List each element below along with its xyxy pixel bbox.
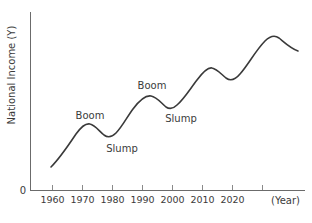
x-tick-label-2000: 2000 (160, 194, 184, 205)
x-tick-label-1980: 1980 (100, 194, 124, 205)
annotation-boom-2: Boom (138, 80, 167, 91)
business-cycle-chart: 1960 1970 1980 1990 2000 2010 2020 0 (Ye… (0, 0, 312, 223)
chart-canvas: 1960 1970 1980 1990 2000 2010 2020 0 (Ye… (0, 0, 312, 223)
annotation-boom-1: Boom (76, 110, 105, 121)
x-tick-label-2020: 2020 (220, 194, 244, 205)
annotation-slump-2: Slump (165, 113, 197, 124)
y-axis-title: National Income (Y) (6, 26, 17, 125)
x-axis-ticks (53, 185, 263, 190)
national-income-curve (51, 36, 298, 167)
x-tick-label-2010: 2010 (190, 194, 214, 205)
x-tick-label-1960: 1960 (40, 194, 64, 205)
x-tick-label-1990: 1990 (130, 194, 154, 205)
y-axis-origin-label: 0 (20, 185, 26, 196)
x-axis-title: (Year) (271, 195, 300, 206)
x-tick-label-1970: 1970 (70, 194, 94, 205)
annotation-slump-1: Slump (106, 143, 138, 154)
